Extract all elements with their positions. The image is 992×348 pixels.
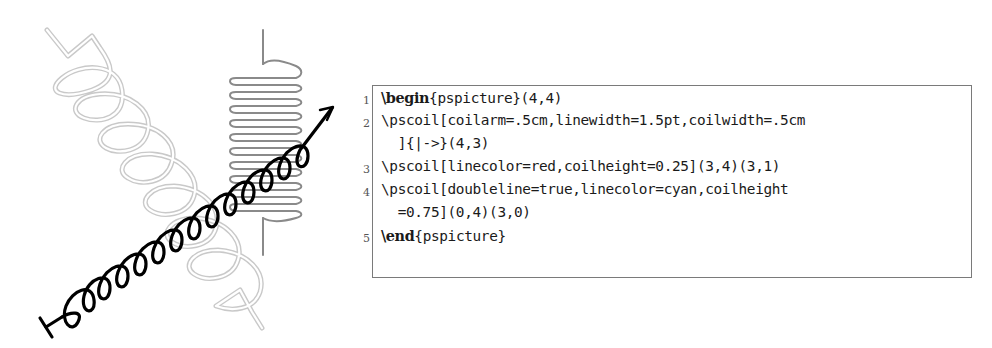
- vertical-coil: [230, 30, 301, 255]
- code-line-2: \pscoil[coilarm=.5cm,linewidth=1.5pt,coi…: [381, 112, 805, 128]
- code-line-5: \end{pspicture}: [381, 227, 506, 244]
- line-number: 4: [363, 186, 370, 199]
- line-number: 1: [363, 94, 370, 107]
- code-line-3: \pscoil[linecolor=red,coilheight=0.25](3…: [381, 158, 780, 174]
- line-number: 3: [363, 163, 370, 176]
- code-text: {pspicture}: [414, 228, 505, 244]
- code-keyword: \end: [381, 227, 414, 244]
- code-line-1: \begin{pspicture}(4,4): [381, 89, 562, 106]
- line-number: 2: [363, 117, 370, 130]
- pspicture-figure: [0, 0, 360, 348]
- line-number: 5: [363, 232, 370, 245]
- coil-drawing: [0, 0, 360, 348]
- code-text: {pspicture}(4,4): [429, 90, 562, 106]
- code-line-2-continued: ]{|->}(4,3): [381, 135, 489, 151]
- code-line-4-continued: =0.75](0,4)(3,0): [381, 204, 531, 220]
- code-keyword: \begin: [381, 89, 429, 106]
- code-line-4: \pscoil[doubleline=true,linecolor=cyan,c…: [381, 181, 788, 197]
